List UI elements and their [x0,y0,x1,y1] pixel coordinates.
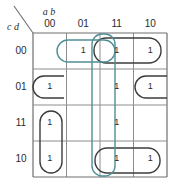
karnaugh-map-diagram: a b c d 00 01 11 10 00 01 11 10 [0,0,172,183]
column-header-row: 00 01 11 10 [44,18,156,29]
cell-r3-c3: 1 [148,153,153,163]
cell-r1-c0: 1 [47,81,52,91]
column-header-2: 11 [112,18,123,29]
kmap-canvas: a b c d 00 01 11 10 00 01 11 10 [0,0,172,183]
row-header-column: 00 01 11 10 [15,45,27,164]
column-header-0: 00 [44,18,56,29]
cell-r2-c2: 1 [114,117,119,127]
row-header-0: 00 [15,45,27,56]
group-teal-row0-c1c2 [57,40,115,62]
cell-r0-c1: 1 [81,45,86,55]
cell-r0-c3: 1 [148,45,153,55]
top-variables-label: a b [43,6,56,17]
cell-r1-c2: 1 [114,81,119,91]
cell-r3-c0: 1 [47,153,52,163]
cell-r3-c2: 1 [114,153,119,163]
row-header-3: 10 [15,153,27,164]
cell-r2-c0: 1 [47,117,52,127]
column-header-1: 01 [78,18,90,29]
column-header-3: 10 [145,18,157,29]
left-variables-label: c d [7,21,20,32]
row-header-2: 11 [16,117,27,128]
row-header-1: 01 [15,81,27,92]
cell-r1-c3: 1 [148,81,153,91]
cell-r0-c2: 1 [114,45,119,55]
